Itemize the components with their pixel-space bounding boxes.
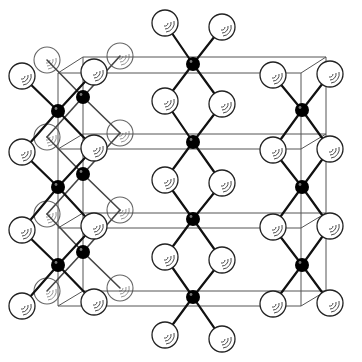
frame-edge-depth xyxy=(58,57,83,73)
bond xyxy=(83,252,120,288)
white-atom xyxy=(81,59,107,85)
white-atom xyxy=(152,88,178,114)
white-atom xyxy=(209,91,235,117)
white-atom xyxy=(209,247,235,273)
white-atom xyxy=(81,213,107,239)
white-atom xyxy=(81,289,107,315)
bond xyxy=(47,137,83,174)
white-atom xyxy=(260,62,286,88)
white-atom xyxy=(152,10,178,36)
black-atom xyxy=(76,90,90,104)
black-atom xyxy=(76,167,90,181)
bond xyxy=(83,97,120,133)
frame-edge-depth xyxy=(58,213,83,228)
black-atom xyxy=(186,290,200,304)
bond xyxy=(47,214,83,252)
white-atom xyxy=(152,244,178,270)
white-atom xyxy=(260,214,286,240)
white-atom xyxy=(317,213,343,239)
crystal-lattice-svg xyxy=(0,0,362,362)
black-atom xyxy=(186,135,200,149)
white-atom xyxy=(9,139,35,165)
white-atom xyxy=(9,63,35,89)
unit-cell-frame xyxy=(58,57,326,306)
crystal-structure-diagram xyxy=(0,0,362,362)
white-atom xyxy=(260,137,286,163)
black-atom xyxy=(51,180,65,194)
bond xyxy=(83,174,120,210)
black-atom xyxy=(295,103,309,117)
black-atom xyxy=(186,212,200,226)
white-atom xyxy=(152,322,178,348)
white-atom xyxy=(9,217,35,243)
black-atom xyxy=(295,258,309,272)
black-atom xyxy=(51,104,65,118)
bond xyxy=(47,60,83,97)
white-atom xyxy=(209,170,235,196)
frame-edge-depth xyxy=(58,134,83,149)
white-atom xyxy=(260,291,286,317)
white-atom xyxy=(9,293,35,319)
white-atom xyxy=(152,167,178,193)
black-atom xyxy=(186,57,200,71)
black-atom xyxy=(295,180,309,194)
black-atom xyxy=(51,258,65,272)
frame-edge-depth xyxy=(58,291,83,306)
white-atom xyxy=(317,61,343,87)
white-atom xyxy=(317,290,343,316)
white-atom xyxy=(209,14,235,40)
white-atom xyxy=(209,326,235,352)
black-atom xyxy=(76,245,90,259)
white-atom xyxy=(317,136,343,162)
white-atom xyxy=(81,135,107,161)
